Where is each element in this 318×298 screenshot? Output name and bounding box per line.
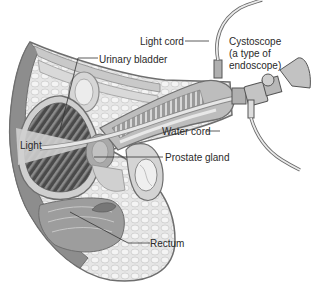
label-urinary-bladder: Urinary bladder xyxy=(99,54,167,65)
water-cord xyxy=(251,118,300,170)
cystoscopy-diagram: Light cord Urinary bladder Cystoscope (a… xyxy=(0,0,318,298)
label-prostate-gland: Prostate gland xyxy=(165,152,230,163)
label-light: Light xyxy=(20,140,42,151)
label-cystoscope-line3: endoscope) xyxy=(229,60,281,71)
label-cystoscope-line1: Cystoscope xyxy=(229,36,281,47)
label-water-cord: Water cord xyxy=(162,126,211,137)
label-light-cord: Light cord xyxy=(140,36,184,47)
label-rectum: Rectum xyxy=(150,238,184,249)
label-cystoscope-line2: (a type of xyxy=(229,48,271,59)
